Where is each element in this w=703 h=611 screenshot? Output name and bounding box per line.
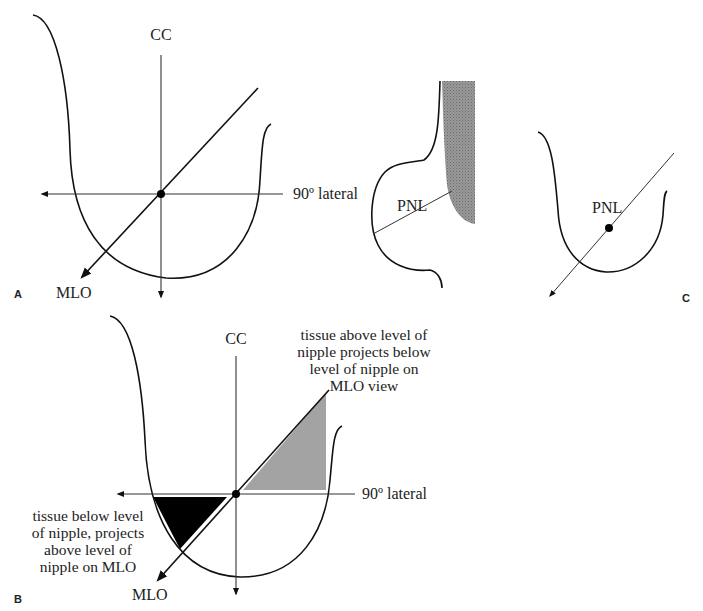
pnl-label-c: PNL xyxy=(592,199,622,216)
breast-contour-a xyxy=(33,15,271,278)
chest-wall-shading xyxy=(442,81,475,224)
svg-text:tissue below level: tissue below level xyxy=(32,507,143,524)
mammography-projection-diagram: CC 90º lateral MLO A PNL PNL C CC 90º la… xyxy=(0,0,703,611)
svg-text:level of nipple on: level of nipple on xyxy=(310,360,419,377)
panel-c: PNL C xyxy=(538,132,690,304)
svg-text:MLO view: MLO view xyxy=(330,377,399,394)
svg-text:tissue above level of: tissue above level of xyxy=(301,326,429,343)
mlo-axis-a xyxy=(82,88,258,277)
panel-a: CC 90º lateral MLO A xyxy=(14,15,358,301)
panel-label-a: A xyxy=(14,288,22,300)
pnl-line-c xyxy=(550,153,674,296)
nipple-dot-c xyxy=(605,224,613,232)
pnl-label-middle: PNL xyxy=(397,197,427,214)
annotation-tissue-below: tissue below level of nipple, projects a… xyxy=(32,507,144,575)
lateral-label-b: 90º lateral xyxy=(362,485,427,502)
mlo-label-a: MLO xyxy=(56,284,92,301)
panel-label-c: C xyxy=(682,292,690,304)
svg-text:nipple on MLO: nipple on MLO xyxy=(40,558,136,575)
cc-label-a: CC xyxy=(150,26,171,43)
svg-text:of nipple, projects: of nipple, projects xyxy=(32,524,144,541)
breast-contour-middle xyxy=(372,81,442,288)
mlo-label-b: MLO xyxy=(132,586,168,603)
cc-label-b: CC xyxy=(225,330,246,347)
nipple-dot-a xyxy=(157,190,165,198)
panel-b: CC 90º lateral MLO B tissue above level … xyxy=(14,316,432,605)
annotation-tissue-above: tissue above level of nipple projects be… xyxy=(297,326,431,394)
svg-text:above level of: above level of xyxy=(44,541,133,558)
nipple-dot-b xyxy=(232,490,240,498)
svg-text:nipple projects below: nipple projects below xyxy=(297,343,431,360)
panel-middle: PNL xyxy=(372,81,475,288)
lateral-label-a: 90º lateral xyxy=(293,185,358,202)
panel-label-b: B xyxy=(14,593,22,605)
tissue-below-region xyxy=(153,497,227,549)
